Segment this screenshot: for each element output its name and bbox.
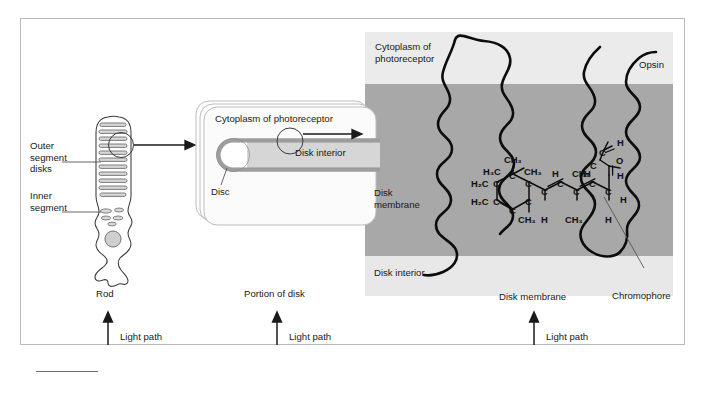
chem-ch3-ring-right: CH₃	[524, 166, 542, 177]
light-path-label-disk: Light path	[289, 331, 331, 343]
chem-ch3-ring-bottom: CH₃	[518, 214, 536, 225]
chem-h-chain-4: H	[605, 214, 612, 225]
label-disk-membrane-bottom: Disk membrane	[499, 291, 566, 303]
chem-o-aldehyde: O	[616, 155, 623, 166]
chem-h-chain-1: H	[541, 214, 548, 225]
label-disk-interior-right: Disk interior	[374, 267, 425, 279]
label-disk-membrane-left: Disk membrane	[374, 187, 420, 210]
chem-c-chain-2: C	[557, 178, 564, 189]
chem-h2c-upper: H₂C	[471, 178, 488, 189]
chem-ch3-chain-3-extra: H	[617, 170, 624, 181]
footer-rule	[36, 371, 98, 372]
figure-frame	[20, 18, 685, 345]
caption-rod: Rod	[96, 288, 114, 300]
chem-h3c-ring: H₃C	[483, 166, 501, 177]
figure-root: Outer segment disks Inner segment Rod Li…	[0, 0, 705, 395]
chem-ch3-chain-1: CH₃	[572, 168, 590, 179]
chem-c-ring-bl: C	[493, 196, 500, 207]
chem-c-ring-br: C	[525, 196, 532, 207]
label-opsin: Opsin	[639, 59, 664, 71]
chem-c-ring-top: C	[509, 170, 516, 181]
label-chromophore: Chromophore	[612, 290, 671, 302]
label-cytoplasm-of-photoreceptor-molecule: Cytoplasm of photoreceptor	[375, 41, 434, 64]
chem-ch3-chain-2: CH₃	[565, 214, 583, 225]
chem-c-ring-tl: C	[493, 178, 500, 189]
chem-h-chain-5: H	[620, 194, 627, 205]
light-path-label-molecule: Light path	[546, 331, 588, 343]
caption-portion-of-disk: Portion of disk	[244, 288, 305, 300]
chem-h2c-lower: H₂C	[471, 196, 488, 207]
chem-c-chain-1: C	[541, 186, 548, 197]
label-cytoplasm-of-photoreceptor-disk: Cytoplasm of photoreceptor	[215, 113, 333, 125]
chem-h-aldehyde: H	[617, 137, 624, 148]
label-disk-interior-middle: Disk interior	[295, 147, 346, 159]
label-inner-segment: Inner segment	[30, 190, 67, 213]
chem-ch3-top: CH₃	[504, 154, 522, 165]
chem-c-chain-6: C	[590, 160, 597, 171]
chem-c-chain-4: C	[589, 178, 596, 189]
label-outer-segment-disks: Outer segment disks	[30, 140, 67, 175]
chem-c-chain-5: C	[605, 186, 612, 197]
chem-c-chain-3: C	[573, 186, 580, 197]
chem-c-ring-bottom: C	[509, 205, 516, 216]
label-disc: Disc	[211, 186, 230, 198]
chem-c-aldehyde: C	[599, 147, 606, 158]
light-path-label-rod: Light path	[120, 331, 162, 343]
chem-c-ring-tr: C	[525, 178, 532, 189]
chem-h-chain-2: H	[552, 168, 559, 179]
